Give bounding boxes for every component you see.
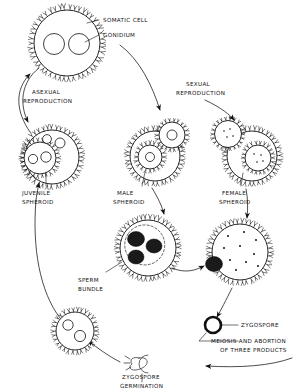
juvenile-gonidium-c: [55, 138, 65, 148]
sperm-bundle-3: [128, 250, 144, 264]
female-spheroid-group: [210, 116, 283, 186]
label-male-spheroid-1: MALE: [117, 190, 134, 196]
fertilized-female-spheroid-group: [206, 218, 274, 285]
label-female-spheroid-2: SPHEROID: [219, 199, 251, 205]
female-upper-spheroid: [215, 121, 242, 148]
label-male-spheroid-2: SPHEROID: [113, 199, 145, 205]
arrow-male-to-sperm-bundle: [152, 188, 164, 214]
arrow-fertilized-to-zygospore: [217, 288, 232, 317]
male-upper-gonidium: [167, 130, 177, 140]
label-juvenile-spheroid-2: SPHEROID: [22, 199, 54, 205]
adult-spheroid: [28, 4, 106, 82]
label-asexual-reproduction-2: REPRODUCTION: [23, 98, 72, 104]
germinating-flagella: [124, 356, 131, 370]
label-zygospore-germination-2: GERMINATION: [120, 383, 163, 389]
label-sexual-reproduction-1: SEXUAL: [186, 81, 211, 87]
new-juvenile-gonidium-b: [74, 330, 85, 341]
juvenile-gonidium-d: [43, 135, 52, 144]
sperm-bundle-spheroid-group: [114, 214, 181, 281]
juvenile-gonidium-a: [28, 154, 37, 163]
germinating-zygospore-cell: [130, 357, 147, 370]
arrow-gonidium-to-male: [120, 45, 160, 110]
sperm-bundle-1: [128, 232, 145, 247]
zygospore: [205, 317, 221, 333]
male-gonidium: [146, 153, 155, 162]
attached-sperm-bundle: [206, 257, 223, 272]
label-sperm-bundle-1: SPERM: [78, 277, 99, 283]
life-cycle-figure: SOMATIC CELL GONIDIUM ASEXUAL REPRODUCTI…: [0, 0, 301, 392]
fertilized-female-spheroid: [212, 224, 268, 280]
label-sperm-bundle-2: BUNDLE: [78, 286, 103, 292]
label-meiosis-1: MEIOSIS AND ABORTION: [211, 338, 286, 344]
label-asexual-reproduction-1: ASEXUAL: [32, 89, 61, 95]
new-juvenile-gonidium-a: [63, 320, 73, 330]
leader-sperm-bundle: [106, 262, 122, 272]
volvox-life-cycle-diagram: SOMATIC CELL GONIDIUM ASEXUAL REPRODUCTI…: [0, 0, 301, 392]
sperm-bundle-2: [146, 239, 162, 253]
label-sexual-reproduction-2: REPRODUCTION: [176, 90, 225, 96]
arrow-asexual-reproduction: [23, 68, 39, 122]
gonidium-right: [69, 34, 90, 55]
juvenile-spheroid-group: [19, 124, 85, 189]
label-zygospore: ZYGOSPORE: [241, 322, 279, 328]
male-spheroid-group: [124, 118, 189, 186]
juvenile-gonidium-b: [41, 152, 51, 162]
label-zygospore-germination-1: ZYGOSPORE: [122, 374, 160, 380]
label-juvenile-spheroid-1: JUVENILE: [21, 190, 51, 197]
gonidium-left: [44, 34, 65, 55]
label-meiosis-2: OF THREE PRODUCTS: [220, 347, 287, 353]
new-juvenile-spheroid-group: [51, 307, 99, 355]
arrow-zygospore-to-germination: [206, 358, 292, 367]
label-female-spheroid-1: FEMALE: [222, 190, 246, 196]
germinating-zygospore-group: [124, 355, 148, 373]
label-gonidium: GONIDIUM: [103, 32, 135, 38]
female-inner-spheroid: [245, 145, 271, 171]
arrow-sperm-to-egg-fertilization: [172, 266, 204, 271]
label-somatic-cell: SOMATIC CELL: [103, 17, 148, 23]
new-juvenile-spheroid: [56, 312, 94, 350]
